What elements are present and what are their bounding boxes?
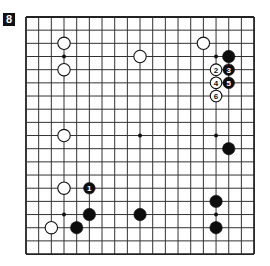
white-stone — [58, 37, 70, 49]
white-stone-move-6: 6 — [210, 90, 222, 102]
star-point — [214, 213, 218, 217]
black-stone-move-5: 5 — [223, 77, 235, 89]
black-stone — [223, 50, 235, 62]
black-stone — [210, 222, 222, 234]
star-point — [214, 55, 218, 59]
white-stone — [197, 37, 209, 49]
star-point — [138, 134, 142, 138]
move-number: 5 — [226, 79, 231, 88]
move-number: 1 — [87, 184, 92, 193]
move-number: 6 — [214, 92, 219, 101]
black-stone — [210, 195, 222, 207]
black-stone — [134, 208, 146, 220]
move-number: 4 — [214, 79, 219, 88]
black-stone-move-1: 1 — [84, 182, 96, 194]
white-stone — [58, 63, 70, 75]
move-number: 3 — [226, 66, 231, 75]
black-stone — [83, 208, 95, 220]
black-stone — [223, 143, 235, 155]
white-stone — [45, 222, 57, 234]
star-point — [214, 134, 218, 138]
go-board: 234561 — [0, 0, 270, 266]
white-stone — [134, 50, 146, 62]
black-stone — [70, 222, 82, 234]
star-point — [62, 55, 66, 59]
black-stone-move-3: 3 — [223, 64, 235, 76]
white-stone — [58, 129, 70, 141]
star-point — [62, 213, 66, 217]
white-stone-move-2: 2 — [210, 64, 222, 76]
move-number: 2 — [214, 66, 219, 75]
white-stone-move-4: 4 — [210, 77, 222, 89]
white-stone — [58, 182, 70, 194]
